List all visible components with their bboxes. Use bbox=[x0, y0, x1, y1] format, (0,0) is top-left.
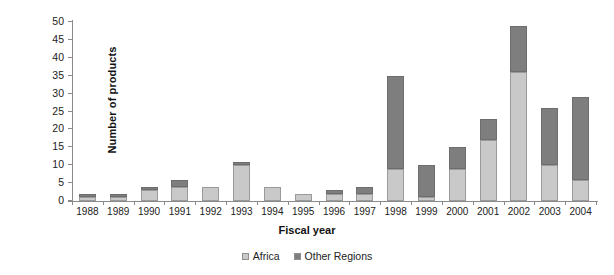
bar-group[interactable] bbox=[171, 22, 188, 201]
bar-group[interactable] bbox=[326, 22, 343, 201]
bar-segment-africa[interactable] bbox=[202, 187, 219, 201]
bar-group[interactable] bbox=[233, 22, 250, 201]
x-tick-mark bbox=[257, 201, 258, 205]
x-tick-mark bbox=[349, 201, 350, 205]
x-axis-label-1989: 1989 bbox=[107, 206, 129, 217]
legend-label: Other Regions bbox=[305, 250, 373, 262]
x-tick-mark bbox=[596, 201, 597, 205]
x-tick-mark bbox=[226, 201, 227, 205]
bar-segment-other-regions[interactable] bbox=[326, 190, 343, 194]
bar-segment-africa[interactable] bbox=[171, 187, 188, 201]
x-tick-mark bbox=[319, 201, 320, 205]
legend-item-other-regions[interactable]: Other Regions bbox=[294, 250, 373, 262]
y-tick-label: 20 bbox=[52, 122, 64, 134]
x-axis-label-1996: 1996 bbox=[323, 206, 345, 217]
bar-group[interactable] bbox=[202, 22, 219, 201]
bar-segment-other-regions[interactable] bbox=[233, 162, 250, 166]
bar-group[interactable] bbox=[79, 22, 96, 201]
y-tick-label: 45 bbox=[52, 33, 64, 45]
legend-item-africa[interactable]: Africa bbox=[242, 250, 280, 262]
bar-group[interactable] bbox=[480, 22, 497, 201]
bar-segment-africa[interactable] bbox=[541, 165, 558, 201]
bar-segment-africa[interactable] bbox=[141, 190, 158, 201]
bar-segment-other-regions[interactable] bbox=[79, 194, 96, 198]
x-tick-mark bbox=[534, 201, 535, 205]
legend-swatch-icon bbox=[242, 253, 249, 260]
bar-group[interactable] bbox=[572, 22, 589, 201]
x-tick-mark bbox=[504, 201, 505, 205]
chart-legend: AfricaOther Regions bbox=[0, 250, 614, 262]
bar-segment-africa[interactable] bbox=[510, 72, 527, 201]
bar-segment-other-regions[interactable] bbox=[171, 180, 188, 187]
bar-segment-other-regions[interactable] bbox=[141, 187, 158, 191]
x-tick-mark bbox=[442, 201, 443, 205]
legend-swatch-icon bbox=[294, 253, 301, 260]
bar-segment-africa[interactable] bbox=[449, 169, 466, 201]
bar-segment-africa[interactable] bbox=[326, 194, 343, 201]
bar-segment-africa[interactable] bbox=[110, 197, 127, 201]
bar-segment-other-regions[interactable] bbox=[541, 108, 558, 165]
y-tick-label: 40 bbox=[52, 51, 64, 63]
bar-segment-other-regions[interactable] bbox=[480, 119, 497, 140]
legend-label: Africa bbox=[253, 250, 280, 262]
bar-segment-africa[interactable] bbox=[572, 180, 589, 201]
bar-group[interactable] bbox=[141, 22, 158, 201]
x-tick-mark bbox=[473, 201, 474, 205]
x-axis-label-1993: 1993 bbox=[230, 206, 252, 217]
bar-segment-africa[interactable] bbox=[295, 194, 312, 201]
bar-segment-africa[interactable] bbox=[356, 194, 373, 201]
x-tick-mark bbox=[411, 201, 412, 205]
bar-segment-other-regions[interactable] bbox=[510, 26, 527, 73]
bar-segment-other-regions[interactable] bbox=[110, 194, 127, 198]
x-tick-mark bbox=[72, 201, 73, 205]
bar-group[interactable] bbox=[418, 22, 435, 201]
x-axis-label-1995: 1995 bbox=[292, 206, 314, 217]
bar-group[interactable] bbox=[295, 22, 312, 201]
x-axis-label-1991: 1991 bbox=[169, 206, 191, 217]
bar-segment-africa[interactable] bbox=[233, 165, 250, 201]
bar-segment-other-regions[interactable] bbox=[387, 76, 404, 169]
x-axis-label-1997: 1997 bbox=[354, 206, 376, 217]
bar-segment-africa[interactable] bbox=[264, 187, 281, 201]
bar-group[interactable] bbox=[356, 22, 373, 201]
x-axis-label-1994: 1994 bbox=[261, 206, 283, 217]
y-tick-label: 35 bbox=[52, 69, 64, 81]
bar-group[interactable] bbox=[110, 22, 127, 201]
bar-chart: Number of products 05101520253035404550 … bbox=[0, 0, 614, 275]
x-axis-label-2000: 2000 bbox=[446, 206, 468, 217]
bar-segment-africa[interactable] bbox=[387, 169, 404, 201]
x-axis-label-1990: 1990 bbox=[138, 206, 160, 217]
bar-segment-other-regions[interactable] bbox=[418, 165, 435, 197]
x-tick-mark bbox=[288, 201, 289, 205]
y-tick-label: 5 bbox=[58, 176, 64, 188]
bar-segment-other-regions[interactable] bbox=[356, 187, 373, 194]
bar-segment-africa[interactable] bbox=[418, 197, 435, 201]
y-tick-label: 10 bbox=[52, 158, 64, 170]
bar-segment-other-regions[interactable] bbox=[449, 147, 466, 168]
x-axis-label-2003: 2003 bbox=[539, 206, 561, 217]
y-tick-label: 30 bbox=[52, 87, 64, 99]
x-tick-mark bbox=[134, 201, 135, 205]
bars-layer bbox=[72, 22, 596, 201]
x-tick-mark bbox=[103, 201, 104, 205]
y-tick-label: 25 bbox=[52, 105, 64, 117]
x-tick-mark bbox=[565, 201, 566, 205]
x-axis-label-1999: 1999 bbox=[415, 206, 437, 217]
bar-group[interactable] bbox=[264, 22, 281, 201]
bar-group[interactable] bbox=[387, 22, 404, 201]
x-axis-label-2002: 2002 bbox=[508, 206, 530, 217]
x-axis-title: Fiscal year bbox=[0, 224, 614, 236]
bar-group[interactable] bbox=[541, 22, 558, 201]
plot-area: 05101520253035404550 bbox=[72, 22, 596, 201]
bar-segment-africa[interactable] bbox=[480, 140, 497, 201]
bar-group[interactable] bbox=[510, 22, 527, 201]
x-tick-mark bbox=[195, 201, 196, 205]
bar-segment-africa[interactable] bbox=[79, 197, 96, 201]
x-axis-label-1992: 1992 bbox=[200, 206, 222, 217]
bar-group[interactable] bbox=[449, 22, 466, 201]
y-tick-label: 15 bbox=[52, 140, 64, 152]
y-tick-label: 0 bbox=[58, 194, 64, 206]
x-axis-label-1988: 1988 bbox=[76, 206, 98, 217]
y-tick-label: 50 bbox=[52, 15, 64, 27]
bar-segment-other-regions[interactable] bbox=[572, 97, 589, 179]
